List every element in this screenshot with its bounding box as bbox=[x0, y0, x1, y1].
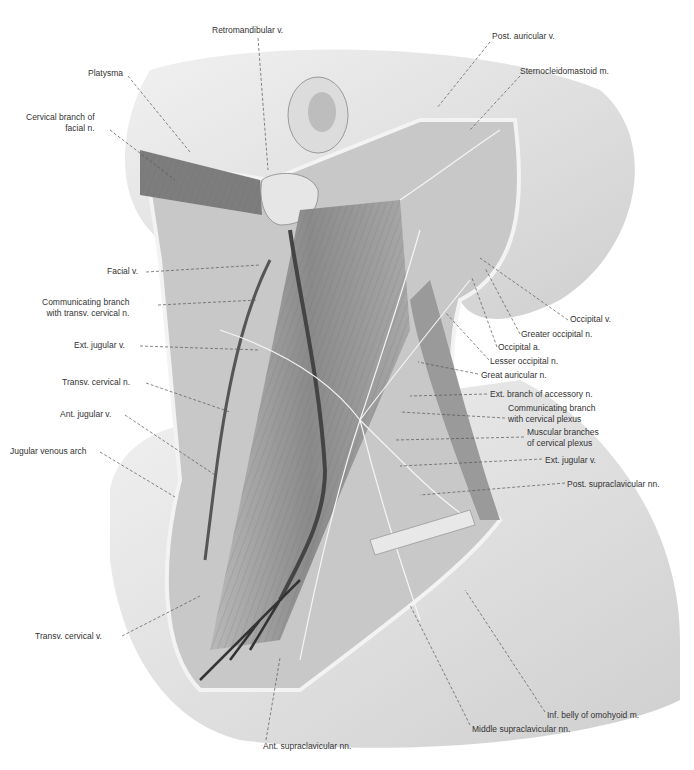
label-ant-supraclavicular-nn: Ant. supraclavicular nn. bbox=[263, 741, 351, 752]
label-ant-jugular-v: Ant. jugular v. bbox=[60, 409, 111, 420]
label-transv-cervical-v: Transv. cervical v. bbox=[35, 631, 102, 642]
label-greater-occipital-n: Greater occipital n. bbox=[521, 329, 592, 340]
label-post-supraclavicular-nn: Post. supraclavicular nn. bbox=[567, 479, 660, 490]
label-great-auricular-n: Great auricular n. bbox=[481, 370, 547, 381]
label-middle-supraclavicular-nn: Middle supraclavicular nn. bbox=[472, 724, 570, 735]
label-facial-v: Facial v. bbox=[107, 266, 138, 277]
label-occipital-a: Occipital a. bbox=[498, 342, 540, 353]
label-jugular-venous-arch: Jugular venous arch bbox=[10, 446, 87, 457]
label-cervical-branch-facial-n: Cervical branch offacial n. bbox=[26, 112, 95, 134]
label-inf-belly-omohyoid-m: Inf. belly of omohyoid m. bbox=[547, 710, 639, 721]
label-ext-jugular-v-left: Ext. jugular v. bbox=[74, 340, 125, 351]
label-muscular-branches-cervical-plexus: Muscular branchesof cervical plexus bbox=[527, 427, 599, 449]
label-post-auricular-v: Post. auricular v. bbox=[492, 31, 555, 42]
label-comm-branch-cervical-plexus: Communicating branchwith cervical plexus bbox=[508, 403, 595, 425]
label-comm-branch-transv-cervical-n: Communicating branchwith transv. cervica… bbox=[42, 297, 129, 319]
label-lesser-occipital-n: Lesser occipital n. bbox=[490, 356, 558, 367]
label-platysma: Platysma bbox=[88, 68, 123, 79]
label-ext-jugular-v-right: Ext. jugular v. bbox=[545, 455, 596, 466]
label-sternocleidomastoid-m: Sternocleidomastoid m. bbox=[520, 66, 609, 77]
label-transv-cervical-n: Transv. cervical n. bbox=[62, 377, 130, 388]
label-retromandibular-v: Retromandibular v. bbox=[212, 25, 283, 36]
label-ext-branch-accessory-n: Ext. branch of accessory n. bbox=[490, 389, 593, 400]
ear-inner bbox=[308, 92, 336, 132]
anatomy-figure: Retromandibular v.Post. auricular v.Plat… bbox=[0, 0, 694, 770]
label-occipital-v: Occipital v. bbox=[570, 314, 611, 325]
